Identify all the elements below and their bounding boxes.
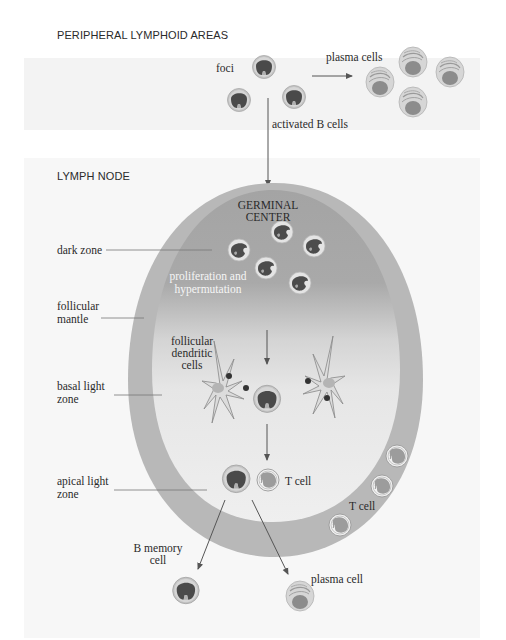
foci-b-cell [283,86,306,109]
diagram-canvas: PERIPHERAL LYMPHOID AREAS LYMPH NODE foc… [0,0,506,640]
centroblast [255,257,277,279]
output-plasma-cell [286,581,314,611]
proliferation-label: hypermutation [174,283,241,296]
basal-light-zone-label: basal light [57,380,105,393]
germinal-center-label: GERMINAL [238,199,299,211]
mantle-t-cell [386,445,408,467]
foci-b-cell [228,89,251,112]
antigen-dot [226,373,232,379]
activated-b-cells-label: activated B cells [272,118,349,130]
antigen-dot [243,385,249,391]
centrocyte [253,385,280,412]
fdc-label: dendritic [172,347,213,359]
mantle-t-cell-label: T cell [349,500,375,512]
fdc-label: cells [181,359,203,371]
basal-light-zone-label: zone [57,393,79,405]
foci-b-cell [253,56,276,79]
antigen-dot [324,395,330,401]
centroblast [271,221,293,243]
foci-label: foci [216,62,234,74]
t-cell [257,469,279,491]
antigen-dot [305,378,311,384]
plasma-cell-label: plasma cell [311,573,363,586]
plasma-cells-label: plasma cells [326,51,383,64]
t-cell-label: T cell [285,475,311,487]
centroblast [289,272,311,294]
germinal-center-diagram: PERIPHERAL LYMPHOID AREAS LYMPH NODE foc… [0,0,506,640]
dark-zone-label: dark zone [57,244,102,256]
plasma-cell [436,57,464,87]
mantle-t-cell [329,514,351,536]
lymph-node-title: LYMPH NODE [57,170,130,182]
fdc-label: follicular [171,335,213,347]
peripheral-title: PERIPHERAL LYMPHOID AREAS [57,29,228,41]
apical-light-zone-label: apical light [57,475,109,488]
centroblast [228,239,250,261]
mantle-t-cell [371,475,393,497]
apical-b-cell [222,465,250,493]
plasma-cell [399,87,427,117]
memory-b-cell [173,577,199,603]
follicular-mantle-label: follicular [57,300,99,312]
centroblast [303,235,325,257]
follicular-mantle-label: mantle [57,313,88,325]
apical-light-zone-label: zone [57,488,79,500]
plasma-cell [366,67,394,97]
proliferation-label: proliferation and [170,270,247,283]
plasma-cell [399,47,427,77]
b-memory-label: cell [150,554,167,566]
